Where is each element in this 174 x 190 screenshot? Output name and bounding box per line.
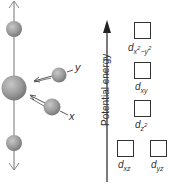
- x-axis-letter: x: [69, 111, 75, 122]
- y-ligand-approach: [34, 68, 73, 83]
- ligand-geometry-diagram: [0, 0, 95, 190]
- bottom-ligand-sphere: [6, 135, 22, 151]
- orbital-box-dyz: [150, 140, 167, 157]
- orbital-label-dyz: dyz: [151, 160, 164, 172]
- orbital-box-dx2-y2: [134, 22, 151, 39]
- orbital-label-dxz: dxz: [118, 160, 131, 172]
- orbital-label-dxy: dxy: [135, 82, 148, 94]
- central-metal-sphere: [2, 76, 27, 101]
- orbital-label-dx2-y2: dx2−y2: [128, 43, 151, 55]
- x-ligand-approach: [30, 95, 68, 116]
- orbital-box-dxy: [134, 62, 151, 79]
- orbital-box-dxz: [117, 140, 134, 157]
- y-axis-letter: y: [75, 62, 81, 73]
- top-ligand-sphere: [6, 21, 22, 37]
- potential-energy-label: Potential energy: [101, 54, 111, 126]
- orbital-box-dz2: [134, 100, 151, 117]
- orbital-label-dz2: dz2: [135, 120, 147, 132]
